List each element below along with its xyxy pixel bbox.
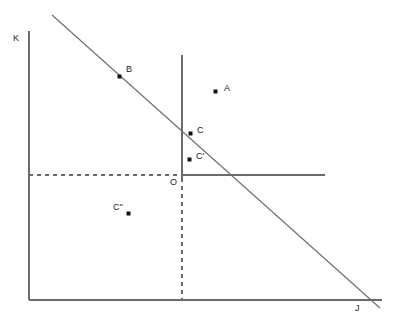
- point-label-b: B: [126, 65, 132, 74]
- point-label-a: A: [224, 84, 230, 93]
- point-b-marker: [118, 75, 122, 79]
- origin-label: O: [170, 178, 177, 187]
- axis-label-k: K: [13, 34, 19, 43]
- diagram-canvas: [0, 0, 401, 322]
- axis-label-j: J: [355, 304, 360, 313]
- point-label-c-double-prime: C'': [113, 203, 123, 212]
- economics-diagram: K J O B A C C' C'': [0, 0, 401, 322]
- point-c-marker: [189, 132, 193, 136]
- point-a-marker: [214, 90, 218, 94]
- point-label-c-prime: C': [196, 152, 204, 161]
- point-c-double-prime-marker: [127, 212, 131, 216]
- point-c-prime-marker: [188, 158, 192, 162]
- budget-line: [52, 15, 380, 308]
- point-label-c: C: [197, 126, 204, 135]
